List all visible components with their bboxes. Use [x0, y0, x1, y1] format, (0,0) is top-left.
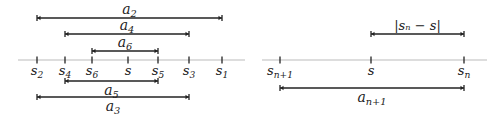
tick-label: s: [368, 63, 375, 78]
tick-label: s5: [152, 63, 165, 80]
sequence-interval-diagram: s2s4s6ss5s3s1a2a4a6a5a3sn+1ssn|sₙ − s|an…: [0, 0, 503, 114]
interval-label: an+1: [357, 89, 386, 107]
tick-label: s1: [216, 63, 228, 80]
interval-bracket: a6: [92, 34, 158, 54]
right-diagram: sn+1ssn|sₙ − s|an+1: [262, 18, 487, 107]
tick-label: sn: [458, 63, 471, 80]
interval-bracket: a2: [37, 1, 222, 21]
tick-label: s2: [31, 63, 44, 80]
interval-label: |sₙ − s|: [394, 18, 441, 33]
tick-label: sn+1: [267, 63, 293, 80]
interval-bracket: a3: [37, 94, 189, 114]
interval-label: a6: [118, 34, 133, 52]
tick-label: s: [125, 63, 132, 78]
tick-label: s4: [59, 63, 72, 80]
interval-label: a4: [120, 17, 135, 35]
interval-bracket: a4: [65, 17, 189, 37]
tick-label: s6: [86, 63, 99, 80]
interval-bracket: an+1: [280, 85, 464, 107]
tick-label: s3: [183, 63, 196, 80]
interval-bracket: |sₙ − s|: [371, 18, 464, 37]
interval-label: a3: [106, 98, 121, 114]
left-diagram: s2s4s6ss5s3s1a2a4a6a5a3: [18, 1, 245, 114]
